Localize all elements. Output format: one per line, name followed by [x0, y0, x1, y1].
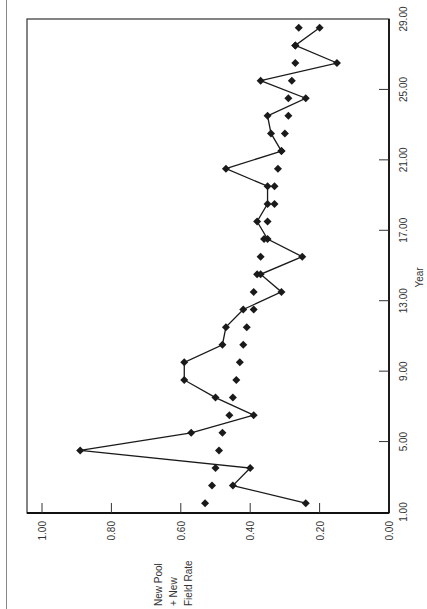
series-dots [201, 24, 303, 507]
fitted-rate-marker [295, 24, 303, 32]
fitted-rate-marker [239, 341, 247, 349]
plot-frame [27, 19, 389, 513]
plot-border [27, 19, 389, 513]
fitted-rate-marker [225, 411, 233, 419]
y-axis-title-line-1: New Pool [153, 563, 164, 606]
value-tick-label: 0.80 [106, 521, 117, 541]
observed-rate-marker [180, 358, 188, 366]
observed-rate-marker [302, 499, 310, 507]
observed-rate-marker [302, 94, 310, 102]
value-tick-label: 0.20 [315, 521, 326, 541]
year-tick-label: 9.00 [398, 361, 409, 381]
y-axis-title-line-3: Field Rate [183, 560, 194, 606]
fitted-rate-marker [288, 77, 296, 85]
fitted-rate-marker [201, 499, 209, 507]
observed-rate-marker [218, 341, 226, 349]
observed-rate-marker [250, 411, 258, 419]
axis-titles: Year New Pool + New Field Rate [153, 267, 425, 606]
observed-rate-marker [264, 200, 272, 208]
value-tick-label: 1.00 [37, 521, 48, 541]
fitted-rate-marker [218, 429, 226, 437]
fitted-rate-marker [291, 59, 299, 67]
observed-rate-marker [264, 182, 272, 190]
observed-rate-marker [298, 253, 306, 261]
value-axis: 0.000.200.400.600.801.00 [37, 503, 395, 540]
observed-rate-marker [76, 446, 84, 454]
observed-rate-line [80, 28, 337, 503]
fitted-rate-marker [270, 200, 278, 208]
value-tick-label: 0.40 [245, 521, 256, 541]
fitted-rate-marker [284, 112, 292, 120]
year-tick-label: 5.00 [398, 431, 409, 451]
value-tick-label: 0.60 [176, 521, 187, 541]
fitted-rate-marker [250, 288, 258, 296]
year-axis: 1.005.009.0013.0017.0021.0025.0029.00 [379, 6, 409, 522]
observed-rate-marker [253, 217, 261, 225]
observed-rate-marker [333, 59, 341, 67]
fitted-rate-marker [270, 182, 278, 190]
fitted-rate-marker [274, 165, 282, 173]
observed-rate-marker [222, 165, 230, 173]
fitted-rate-marker [277, 147, 285, 155]
fitted-rate-marker [215, 446, 223, 454]
fitted-rate-marker [232, 376, 240, 384]
year-tick-label: 25.00 [398, 76, 409, 101]
year-tick-label: 17.00 [398, 217, 409, 242]
observed-rate-marker [187, 429, 195, 437]
fitted-rate-marker [264, 217, 272, 225]
observed-rate-marker [267, 129, 275, 137]
year-tick-label: 29.00 [398, 6, 409, 31]
year-tick-label: 13.00 [398, 288, 409, 313]
year-tick-label: 21.00 [398, 147, 409, 172]
y-axis-title-line-2: + New [168, 577, 179, 606]
value-tick-label: 0.00 [384, 521, 395, 541]
fitted-rate-marker [257, 253, 265, 261]
series-line [76, 24, 341, 507]
chart: 0.000.200.400.600.801.00 1.005.009.0013.… [0, 0, 427, 609]
year-tick-label: 1.00 [398, 502, 409, 522]
observed-rate-marker [212, 394, 220, 402]
fitted-rate-marker [236, 358, 244, 366]
fitted-rate-marker [229, 394, 237, 402]
fitted-rate-marker [208, 482, 216, 490]
x-axis-title: Year [414, 267, 425, 288]
observed-rate-marker [257, 77, 265, 85]
fitted-rate-marker [281, 129, 289, 137]
fitted-rate-marker [243, 323, 251, 331]
observed-rate-marker [180, 376, 188, 384]
fitted-rate-marker [284, 94, 292, 102]
observed-rate-marker [264, 112, 272, 120]
